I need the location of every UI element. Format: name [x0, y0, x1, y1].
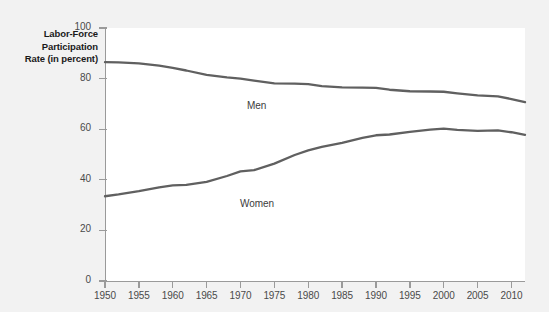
series-label-women: Women: [240, 198, 274, 209]
series-label-men: Men: [247, 100, 266, 111]
chart-figure: Labor-Force Participation Rate (in perce…: [0, 0, 549, 312]
series-lines: [0, 0, 549, 312]
line-series-women: [105, 129, 525, 197]
line-series-men: [105, 62, 525, 102]
